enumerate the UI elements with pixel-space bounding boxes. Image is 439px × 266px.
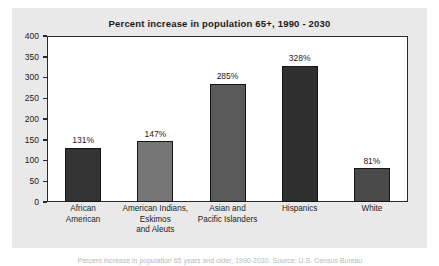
chart-card: Percent increase in population 65+, 1990… — [12, 8, 427, 248]
y-axis-tick-label: 350 — [25, 53, 43, 62]
x-axis-category-line: and Aleuts — [103, 225, 207, 236]
x-axis-category-label: White — [320, 204, 424, 215]
figure-caption-text: Percent increase in population 65 years … — [14, 256, 426, 265]
y-axis-tick-label: 50 — [30, 177, 43, 186]
bar — [137, 141, 173, 202]
bar — [65, 148, 101, 202]
bar — [210, 84, 246, 202]
chart-screenshot: Percent increase in population 65+, 1990… — [0, 0, 439, 266]
y-axis-tick-label: 400 — [25, 32, 43, 41]
y-axis-tick-label: 200 — [25, 115, 43, 124]
x-axis-labels: AfricanAmericanAmerican Indians,Eskimosa… — [47, 204, 408, 248]
bar-slot: 131% — [65, 36, 101, 202]
y-axis-tick-label: 150 — [25, 136, 43, 145]
x-axis-category-line: White — [320, 204, 424, 215]
bar-slot: 81% — [354, 36, 390, 202]
x-axis-category-line: Pacific Islanders — [176, 215, 280, 226]
bar — [354, 168, 390, 202]
bar-slot: 328% — [282, 36, 318, 202]
y-axis: 050100150200250300350400 — [12, 36, 47, 202]
y-axis-tick-label: 250 — [25, 94, 43, 103]
bar-slot: 285% — [210, 36, 246, 202]
bar-value-label: 328% — [270, 54, 330, 63]
chart-title: Percent increase in population 65+, 1990… — [12, 18, 427, 29]
bar-value-label: 147% — [125, 130, 185, 139]
bar — [282, 66, 318, 202]
bar-value-label: 285% — [198, 72, 258, 81]
y-axis-tick-label: 100 — [25, 156, 43, 165]
y-axis-tick-label: 300 — [25, 73, 43, 82]
figure-caption: Percent increase in population 65 years … — [14, 256, 426, 266]
bar-value-label: 131% — [53, 136, 113, 145]
bar-value-label: 81% — [342, 157, 402, 166]
bars-layer: 131%147%285%328%81% — [47, 36, 408, 202]
bar-slot: 147% — [137, 36, 173, 202]
